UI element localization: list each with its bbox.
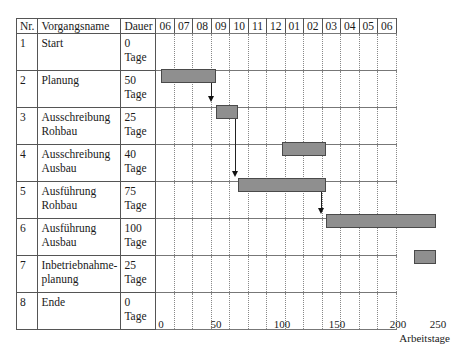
cell-name: AusschreibungRohbau	[38, 108, 121, 145]
timeline-cell	[230, 108, 249, 145]
timeline-cell	[378, 71, 397, 108]
cell-name-line: Ausführung	[41, 184, 117, 198]
cell-nr-line: 1	[20, 36, 34, 50]
timeline-cell	[156, 145, 175, 182]
timeline-cell	[174, 219, 193, 256]
header-month: 12	[267, 19, 286, 34]
header-month: 10	[230, 19, 249, 34]
cell-duration-line2: Tage	[124, 50, 152, 64]
header-month: 02	[304, 19, 323, 34]
timeline-cell	[230, 256, 249, 293]
timeline-cell	[211, 34, 230, 71]
timeline-cell	[174, 256, 193, 293]
x-tick: 250	[430, 318, 447, 330]
cell-duration-line: 75	[124, 184, 152, 198]
timeline-cell	[230, 34, 249, 71]
timeline-cell	[304, 145, 323, 182]
cell-name-line: Ende	[41, 295, 117, 309]
timeline-cell	[285, 219, 304, 256]
timeline-cell	[359, 219, 378, 256]
header-month: 08	[193, 19, 212, 34]
timeline-cell	[193, 219, 212, 256]
timeline-cell	[211, 71, 230, 108]
timeline-cell	[193, 182, 212, 219]
timeline-cell	[248, 293, 266, 330]
cell-duration: 50Tage	[121, 71, 156, 108]
table-row: 1Start0Tage	[17, 34, 397, 71]
cell-duration: 75Tage	[121, 182, 156, 219]
timeline-cell	[174, 145, 193, 182]
cell-name-line2: planung	[41, 272, 117, 286]
cell-nr: 3	[17, 108, 38, 145]
timeline-cell	[248, 145, 266, 182]
timeline-cell	[267, 145, 286, 182]
timeline-cell	[248, 219, 266, 256]
gantt-table: Nr. Vorgangsname Dauer 06 07 08 09 10 11…	[16, 18, 397, 330]
timeline-cell	[285, 182, 304, 219]
cell-nr: 1	[17, 34, 38, 71]
cell-nr: 4	[17, 145, 38, 182]
timeline-cell	[156, 219, 175, 256]
timeline-cell	[322, 71, 341, 108]
timeline-cell	[285, 293, 304, 330]
cell-nr-line: 5	[20, 184, 34, 198]
table-row: 8Ende0Tage	[17, 293, 397, 330]
cell-duration-line2: Tage	[124, 198, 152, 212]
gantt-chart: Nr. Vorgangsname Dauer 06 07 08 09 10 11…	[16, 18, 397, 330]
cell-duration-line: 100	[124, 221, 152, 235]
header-duration: Dauer	[121, 19, 156, 34]
timeline-cell	[341, 293, 360, 330]
timeline-cell	[174, 293, 193, 330]
timeline-cell	[267, 256, 286, 293]
header-month: 06	[378, 19, 397, 34]
header-nr: Nr.	[17, 19, 38, 34]
cell-nr-line: 4	[20, 147, 34, 161]
cell-duration: 100Tage	[121, 219, 156, 256]
cell-nr: 8	[17, 293, 38, 330]
table-row: 2Planung50Tage	[17, 71, 397, 108]
timeline-cell	[156, 71, 175, 108]
timeline-cell	[304, 71, 323, 108]
cell-name: AusführungRohbau	[38, 182, 121, 219]
timeline-cell	[322, 108, 341, 145]
timeline-cell	[359, 256, 378, 293]
cell-name-line2: Rohbau	[41, 198, 117, 212]
timeline-cell	[230, 145, 249, 182]
timeline-cell	[378, 293, 397, 330]
cell-name: Ende	[38, 293, 121, 330]
cell-duration: 25Tage	[121, 108, 156, 145]
timeline-cell	[304, 219, 323, 256]
timeline-cell	[267, 219, 286, 256]
timeline-cell	[359, 108, 378, 145]
cell-name: Inbetriebnahme-planung	[38, 256, 121, 293]
timeline-cell	[304, 34, 323, 71]
header-month: 09	[211, 19, 230, 34]
timeline-cell	[156, 108, 175, 145]
timeline-cell	[341, 256, 360, 293]
timeline-cell	[174, 71, 193, 108]
header-month: 03	[322, 19, 341, 34]
header-month: 04	[341, 19, 360, 34]
cell-duration-line: 25	[124, 258, 152, 272]
timeline-cell	[378, 34, 397, 71]
cell-duration: 25Tage	[121, 256, 156, 293]
table-row: 4AusschreibungAusbau40Tage	[17, 145, 397, 182]
cell-name-line: Ausschreibung	[41, 110, 117, 124]
timeline-cell	[230, 219, 249, 256]
cell-duration: 0Tage	[121, 293, 156, 330]
timeline-cell	[378, 108, 397, 145]
cell-name: Planung	[38, 71, 121, 108]
timeline-cell	[341, 182, 360, 219]
cell-name-line2: Ausbau	[41, 161, 117, 175]
timeline-cell	[267, 108, 286, 145]
timeline-cell	[322, 182, 341, 219]
timeline-cell	[193, 108, 212, 145]
timeline-cell	[248, 71, 266, 108]
cell-nr-line: 7	[20, 258, 34, 272]
timeline-cell	[193, 256, 212, 293]
timeline-cell	[322, 145, 341, 182]
cell-nr-line: 2	[20, 73, 34, 87]
timeline-cell	[248, 34, 266, 71]
cell-duration-line2: Tage	[124, 272, 152, 286]
header-month: 11	[248, 19, 266, 34]
